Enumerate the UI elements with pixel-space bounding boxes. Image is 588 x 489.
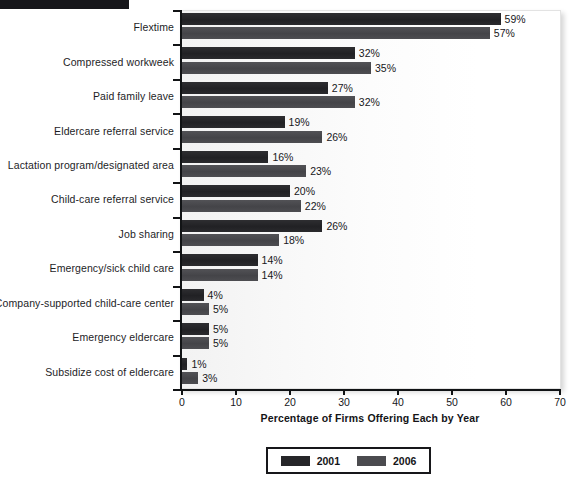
bar-2006 [182, 337, 209, 349]
bar-2006 [182, 62, 371, 74]
y-axis-tick [173, 355, 181, 357]
x-axis-tick [235, 389, 237, 395]
bar-2001 [182, 254, 258, 266]
bar-row: 22% [182, 200, 588, 212]
category-label: Flextime [134, 21, 174, 33]
bar-2006 [182, 165, 306, 177]
bar-row: 4% [182, 289, 588, 301]
bar-value-label: 3% [198, 372, 217, 384]
bar-value-label: 32% [355, 96, 380, 108]
chart-row: Company-supported child-care center4%5% [0, 286, 588, 320]
bar-row: 5% [182, 303, 588, 315]
y-axis-tick [173, 251, 181, 253]
x-axis-tick-label: 20 [284, 396, 296, 408]
y-axis-tick [173, 286, 181, 288]
bar-row: 14% [182, 254, 588, 266]
bar-2001 [182, 116, 285, 128]
legend-item-2001[interactable]: 2001 [281, 455, 340, 467]
x-axis-tick [289, 389, 291, 395]
bar-value-label: 5% [209, 323, 228, 335]
bar-group: 1%3% [182, 358, 588, 386]
bar-row: 27% [182, 82, 588, 94]
bar-value-label: 22% [301, 200, 326, 212]
category-label: Paid family leave [93, 90, 174, 102]
bar-2006 [182, 372, 198, 384]
bar-value-label: 26% [322, 131, 347, 143]
bar-row: 5% [182, 337, 588, 349]
bar-row: 26% [182, 220, 588, 232]
y-axis-tick [173, 10, 181, 12]
chart-row: Paid family leave27%32% [0, 79, 588, 113]
bar-value-label: 20% [290, 185, 315, 197]
chart-row: Compressed workweek32%35% [0, 44, 588, 78]
bar-row: 19% [182, 116, 588, 128]
bar-value-label: 5% [209, 303, 228, 315]
chart-rows: Flextime59%57%Compressed workweek32%35%P… [0, 10, 588, 389]
bar-2006 [182, 303, 209, 315]
x-axis-tick [505, 389, 507, 395]
bar-2001 [182, 82, 328, 94]
bar-row: 3% [182, 372, 588, 384]
legend-label-2001: 2001 [317, 455, 340, 467]
bar-value-label: 59% [501, 13, 526, 25]
bar-2006 [182, 234, 279, 246]
chart-row: Flextime59%57% [0, 10, 588, 44]
x-axis-tick-label: 10 [230, 396, 242, 408]
bar-row: 5% [182, 323, 588, 335]
bar-2001 [182, 13, 501, 25]
x-axis-tick [451, 389, 453, 395]
x-axis-title: Percentage of Firms Offering Each by Yea… [180, 412, 560, 424]
x-axis-tick-label: 50 [446, 396, 458, 408]
x-axis-tick-label: 60 [500, 396, 512, 408]
category-label: Job sharing [119, 228, 174, 240]
category-label: Subsidize cost of eldercare [45, 366, 174, 378]
bar-value-label: 19% [285, 116, 310, 128]
bar-group: 4%5% [182, 289, 588, 317]
bar-2001 [182, 289, 204, 301]
bar-value-label: 14% [258, 269, 283, 281]
bar-group: 27%32% [182, 82, 588, 110]
bar-row: 32% [182, 47, 588, 59]
bar-2006 [182, 269, 258, 281]
bar-group: 26%18% [182, 220, 588, 248]
chart-row: Lactation program/designated area16%23% [0, 148, 588, 182]
bar-row: 26% [182, 131, 588, 143]
category-label: Eldercare referral service [54, 125, 174, 137]
y-axis-tick [173, 148, 181, 150]
chart-row: Subsidize cost of eldercare1%3% [0, 355, 588, 389]
bar-2001 [182, 323, 209, 335]
category-label: Emergency eldercare [72, 331, 174, 343]
x-axis-tick [559, 389, 561, 395]
bar-2001 [182, 151, 268, 163]
chart-legend: 20012006 [266, 447, 431, 474]
y-axis-tick [173, 44, 181, 46]
chart-row: Eldercare referral service19%26% [0, 113, 588, 147]
bar-chart-figure: Flextime59%57%Compressed workweek32%35%P… [0, 0, 588, 489]
bar-row: 1% [182, 358, 588, 370]
category-label: Lactation program/designated area [8, 159, 174, 171]
bar-group: 59%57% [182, 13, 588, 41]
bar-value-label: 4% [204, 289, 223, 301]
y-axis-tick [173, 217, 181, 219]
y-axis-tick [173, 113, 181, 115]
category-label: Child-care referral service [51, 193, 174, 205]
category-label: Emergency/sick child care [50, 262, 174, 274]
chart-row: Emergency eldercare5%5% [0, 320, 588, 354]
bar-row: 57% [182, 27, 588, 39]
bar-value-label: 5% [209, 337, 228, 349]
x-axis-tick [181, 389, 183, 395]
category-label: Compressed workweek [63, 56, 174, 68]
x-axis-tick-label: 0 [179, 396, 185, 408]
bar-row: 20% [182, 185, 588, 197]
bar-2001 [182, 47, 355, 59]
bar-group: 19%26% [182, 116, 588, 144]
x-axis-tick [343, 389, 345, 395]
legend-item-2006[interactable]: 2006 [357, 455, 416, 467]
chart-row: Job sharing26%18% [0, 217, 588, 251]
bar-group: 5%5% [182, 323, 588, 351]
x-axis-tick-label: 70 [554, 396, 566, 408]
bar-group: 14%14% [182, 254, 588, 282]
bar-group: 20%22% [182, 185, 588, 213]
x-axis-ticks: 010203040506070 [0, 389, 588, 409]
bar-value-label: 26% [322, 220, 347, 232]
